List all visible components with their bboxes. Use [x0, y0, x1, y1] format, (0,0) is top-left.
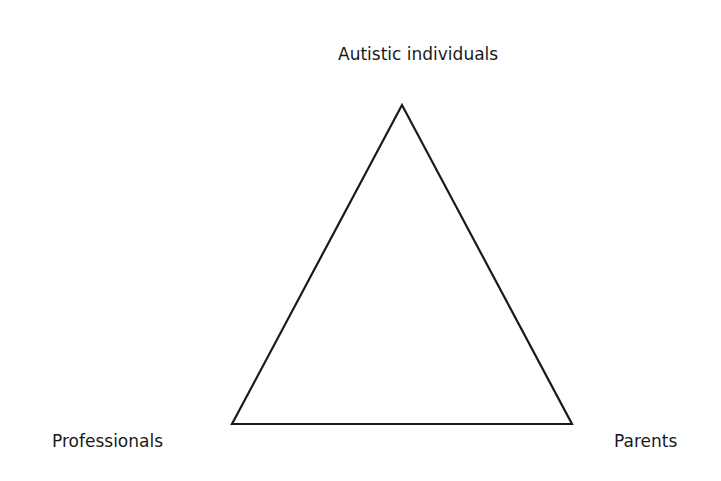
label-professionals: Professionals [52, 431, 163, 451]
label-autistic-individuals: Autistic individuals [338, 44, 498, 64]
triangle-shape [232, 105, 572, 424]
label-parents: Parents [614, 431, 677, 451]
triangle-diagram [0, 0, 721, 481]
